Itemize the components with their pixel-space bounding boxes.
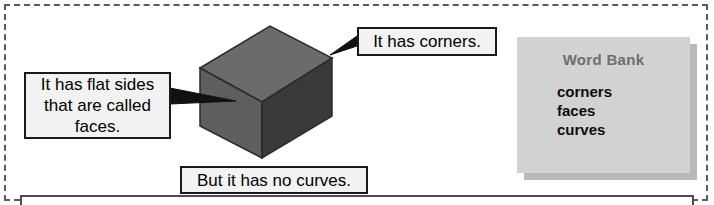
word-bank-card: Word Bank corners faces curves xyxy=(517,37,690,173)
next-section-panel xyxy=(20,195,694,205)
worksheet-page: It has flat sides that are called faces.… xyxy=(0,0,714,205)
callout-corners: It has corners. xyxy=(357,27,497,56)
word-bank-panel: Word Bank corners faces curves xyxy=(517,37,697,180)
word-bank-list: corners faces curves xyxy=(517,68,690,139)
callout-no-curves: But it has no curves. xyxy=(180,166,368,194)
word-bank-title: Word Bank xyxy=(517,37,690,68)
callout-flat-sides-faces: It has flat sides that are called faces. xyxy=(24,72,171,139)
callout-corners-text: It has corners. xyxy=(367,31,487,52)
callout-faces-text: It has flat sides that are called faces. xyxy=(35,74,160,137)
word-bank-item: faces xyxy=(557,101,690,120)
cube-illustration xyxy=(196,22,336,162)
word-bank-item: corners xyxy=(557,82,690,101)
callout-curves-text: But it has no curves. xyxy=(191,170,357,191)
word-bank-item: curves xyxy=(557,120,690,139)
